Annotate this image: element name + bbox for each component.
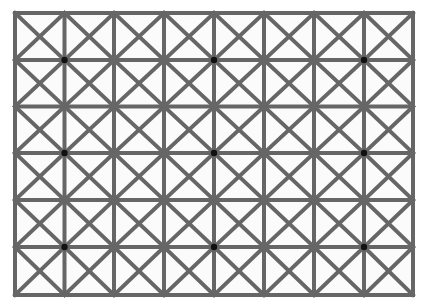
black-dot: [61, 150, 67, 156]
black-dot: [361, 57, 367, 63]
black-dot: [361, 150, 367, 156]
black-dot: [211, 57, 217, 63]
black-dot: [61, 244, 67, 250]
black-dot: [361, 244, 367, 250]
illusion-canvas: [0, 0, 427, 308]
black-dot: [61, 57, 67, 63]
extinction-grid-figure: [0, 0, 427, 308]
black-dot: [211, 244, 217, 250]
black-dot: [211, 150, 217, 156]
